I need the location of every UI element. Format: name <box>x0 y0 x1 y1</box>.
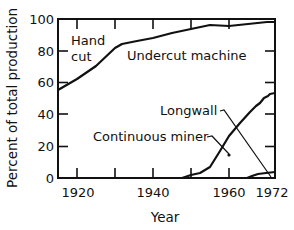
y-tick-20: 20 <box>37 139 54 154</box>
longwall-leader-line <box>220 110 271 177</box>
y-tick-80: 80 <box>37 44 54 59</box>
annotation-undercut-machine: Undercut machine <box>127 48 247 63</box>
y-tick-40: 40 <box>37 107 54 122</box>
x-tick-1940: 1940 <box>136 185 169 200</box>
annotation-hand: Hand <box>71 33 105 48</box>
continuous-miner-leader-line <box>207 136 229 154</box>
y-tick-60: 60 <box>37 75 54 90</box>
annotation-longwall: Longwall <box>160 103 217 118</box>
x-axis-title: Year <box>150 209 180 225</box>
x-tick-1920: 1920 <box>61 185 94 200</box>
production-chart: 0 20 40 60 80 100 1920 1940 1960 1972 Ye… <box>0 0 294 230</box>
y-tick-100: 100 <box>29 12 54 27</box>
x-tick-1960: 1960 <box>212 185 245 200</box>
y-ticks-left <box>58 51 68 147</box>
y-tick-0: 0 <box>46 171 54 186</box>
x-ticks-top <box>77 19 229 29</box>
annotation-continuous-miner: Continuous miner <box>93 129 209 144</box>
continuous-miner-leader-dot <box>227 153 230 156</box>
annotation-cut: cut <box>71 49 91 64</box>
y-ticks-right <box>265 51 275 147</box>
y-axis-title: Percent of total production <box>4 8 20 188</box>
x-tick-1972: 1972 <box>255 185 288 200</box>
